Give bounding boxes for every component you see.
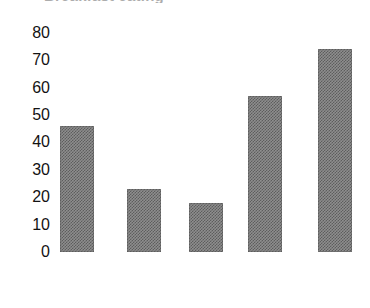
- bar-sausage[interactable]: [189, 203, 223, 252]
- bar-eggs[interactable]: [60, 126, 94, 252]
- bar-series: Eggs Bacon Sausage Baked beans: [0, 0, 370, 308]
- bar-chart: Breakfast eating 80 70 60 50 40 30 20 10…: [0, 0, 370, 308]
- bar-bacon[interactable]: [127, 189, 161, 252]
- bar-toast[interactable]: [318, 49, 352, 252]
- plot-area: 80 70 60 50 40 30 20 10 0 Eggs Bacon: [0, 0, 370, 308]
- bar-baked-beans[interactable]: [248, 96, 282, 252]
